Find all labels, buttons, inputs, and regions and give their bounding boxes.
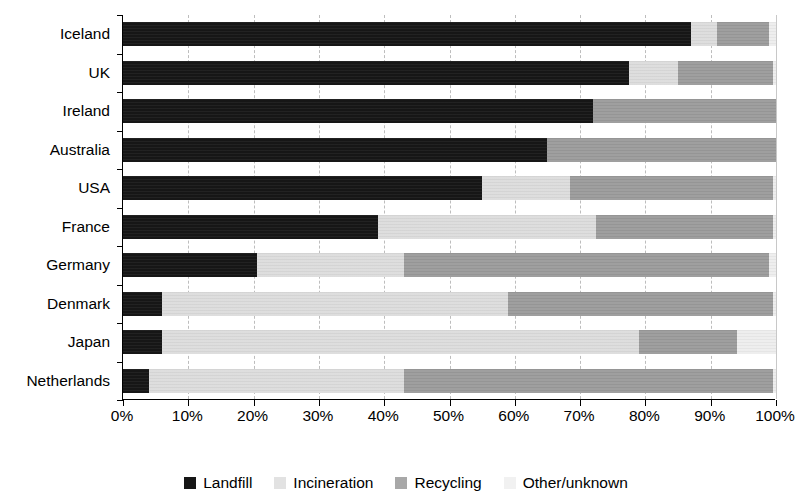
bar-segment-incineration bbox=[378, 215, 597, 239]
bar-segment-recycling bbox=[547, 138, 776, 162]
bar-segment-other bbox=[773, 215, 776, 239]
bar-segment-other bbox=[773, 292, 776, 316]
y-axis-tick bbox=[117, 285, 123, 286]
bar-segment-incineration bbox=[162, 330, 639, 354]
stacked-bar-chart: IcelandUKIrelandAustraliaUSAFranceGerman… bbox=[0, 0, 812, 504]
x-axis-tick bbox=[450, 400, 451, 406]
chart-legend: LandfillIncinerationRecyclingOther/unkno… bbox=[0, 470, 812, 496]
x-axis-tick bbox=[188, 400, 189, 406]
x-axis-tick-label: 90% bbox=[694, 408, 725, 424]
y-axis-category-label: Netherlands bbox=[26, 373, 110, 389]
bar-segment-landfill bbox=[123, 369, 149, 393]
x-axis-tick-label: 20% bbox=[237, 408, 268, 424]
legend-swatch-recycling-icon bbox=[395, 477, 407, 489]
y-axis-category-label: Iceland bbox=[60, 26, 110, 42]
bar-segment-other bbox=[737, 330, 776, 354]
y-axis-category-label: USA bbox=[78, 180, 110, 196]
x-axis-tick bbox=[319, 400, 320, 406]
x-axis-tick-label: 60% bbox=[498, 408, 529, 424]
legend-item-other: Other/unknown bbox=[504, 475, 628, 491]
legend-label: Landfill bbox=[203, 475, 252, 491]
x-axis-tick-labels: 0%10%20%30%40%50%60%70%80%90%100% bbox=[0, 408, 812, 434]
bar-segment-landfill bbox=[123, 292, 162, 316]
bar-row bbox=[123, 292, 776, 316]
bar-segment-recycling bbox=[508, 292, 772, 316]
bar-row bbox=[123, 138, 776, 162]
legend-swatch-incineration-icon bbox=[274, 477, 286, 489]
bar-segment-other bbox=[773, 369, 776, 393]
bar-segment-other bbox=[769, 22, 776, 46]
bar-segment-landfill bbox=[123, 61, 629, 85]
y-axis-category-label: UK bbox=[88, 65, 110, 81]
y-axis-category-label: Japan bbox=[68, 334, 110, 350]
x-axis-tick bbox=[776, 400, 777, 406]
y-axis-tick bbox=[117, 15, 123, 16]
bar-segment-incineration bbox=[149, 369, 404, 393]
bar-row bbox=[123, 215, 776, 239]
bar-segment-landfill bbox=[123, 215, 378, 239]
x-axis-tick-label: 0% bbox=[111, 408, 133, 424]
bar-row bbox=[123, 99, 776, 123]
x-axis-tick-label: 100% bbox=[755, 408, 795, 424]
x-axis-tick-label: 80% bbox=[629, 408, 660, 424]
legend-swatch-other-icon bbox=[504, 477, 516, 489]
legend-label: Other/unknown bbox=[523, 475, 628, 491]
x-axis-tick-label: 30% bbox=[302, 408, 333, 424]
y-axis-category-label: Ireland bbox=[63, 103, 110, 119]
legend-label: Incineration bbox=[293, 475, 373, 491]
x-axis-tick bbox=[384, 400, 385, 406]
bar-row bbox=[123, 330, 776, 354]
x-axis-tick bbox=[645, 400, 646, 406]
bar-segment-landfill bbox=[123, 138, 547, 162]
x-axis-tick bbox=[580, 400, 581, 406]
legend-label: Recycling bbox=[414, 475, 481, 491]
bar-segment-landfill bbox=[123, 330, 162, 354]
bar-segment-landfill bbox=[123, 176, 482, 200]
bar-row bbox=[123, 369, 776, 393]
x-axis-tick-label: 10% bbox=[172, 408, 203, 424]
y-axis-tick bbox=[117, 400, 123, 401]
bar-segment-other bbox=[773, 176, 776, 200]
y-axis-tick bbox=[117, 131, 123, 132]
bar-segment-landfill bbox=[123, 253, 257, 277]
y-axis-tick bbox=[117, 246, 123, 247]
bar-segment-incineration bbox=[482, 176, 570, 200]
bar-segment-incineration bbox=[629, 61, 678, 85]
y-axis-tick bbox=[117, 92, 123, 93]
bar-segment-recycling bbox=[678, 61, 773, 85]
y-axis-tick bbox=[117, 54, 123, 55]
bar-segment-recycling bbox=[717, 22, 769, 46]
bar-segment-recycling bbox=[404, 253, 770, 277]
bar-row bbox=[123, 176, 776, 200]
bar-segment-recycling bbox=[596, 215, 772, 239]
legend-swatch-landfill-icon bbox=[184, 477, 196, 489]
bar-segment-incineration bbox=[257, 253, 404, 277]
x-axis-tick-label: 50% bbox=[433, 408, 464, 424]
bar-row bbox=[123, 253, 776, 277]
bar-segment-incineration bbox=[162, 292, 508, 316]
bar-segment-other bbox=[769, 253, 776, 277]
bar-segment-landfill bbox=[123, 22, 691, 46]
x-axis-tick bbox=[515, 400, 516, 406]
y-axis-tick bbox=[117, 323, 123, 324]
x-axis-tick-label: 40% bbox=[368, 408, 399, 424]
bar-segment-recycling bbox=[593, 99, 776, 123]
gridline bbox=[776, 15, 777, 399]
legend-item-recycling: Recycling bbox=[395, 475, 481, 491]
y-axis-category-labels: IcelandUKIrelandAustraliaUSAFranceGerman… bbox=[0, 15, 118, 400]
legend-item-landfill: Landfill bbox=[184, 475, 252, 491]
y-axis-category-label: France bbox=[62, 219, 110, 235]
x-axis-tick bbox=[254, 400, 255, 406]
y-axis-category-label: Australia bbox=[50, 142, 110, 158]
x-axis-tick bbox=[711, 400, 712, 406]
bar-segment-recycling bbox=[404, 369, 773, 393]
bar-segment-other bbox=[773, 61, 776, 85]
x-axis-tick-label: 70% bbox=[564, 408, 595, 424]
bar-row bbox=[123, 22, 776, 46]
legend-item-incineration: Incineration bbox=[274, 475, 373, 491]
y-axis-category-label: Germany bbox=[46, 257, 110, 273]
bar-segment-landfill bbox=[123, 99, 593, 123]
bar-segment-recycling bbox=[570, 176, 772, 200]
x-axis-tick bbox=[123, 400, 124, 406]
plot-area bbox=[122, 15, 775, 400]
